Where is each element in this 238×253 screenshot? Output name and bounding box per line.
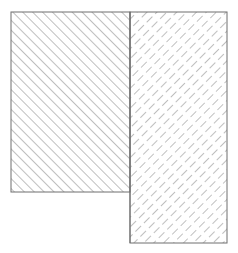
right-region: [130, 12, 227, 243]
left-region: [11, 12, 130, 192]
hatched-diagram: [0, 0, 238, 253]
